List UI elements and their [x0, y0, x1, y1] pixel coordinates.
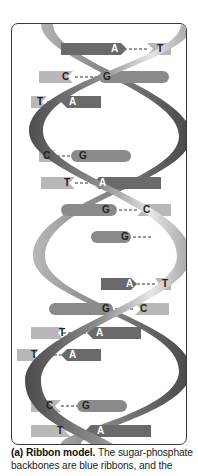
base-8-left: A — [126, 278, 133, 289]
base-8-right: T — [162, 278, 168, 289]
base-12-left: C — [46, 400, 53, 411]
base-2-right: G — [103, 71, 111, 82]
base-13-left: T — [57, 425, 63, 436]
base-5-left: T — [64, 177, 70, 188]
caption-title: Ribbon model. — [26, 447, 95, 458]
base-1-right: T — [157, 43, 163, 54]
base-12-right: G — [82, 400, 90, 411]
base-10-left: T — [59, 327, 65, 338]
figure-caption: (a) Ribbon model. The sugar-phosphate ba… — [11, 446, 197, 472]
base-5-right: A — [99, 177, 106, 188]
base-1-left: A — [111, 43, 118, 54]
base-4-left: C — [43, 150, 50, 161]
base-letters: A T C G T A C G T A G C G A T G C T A T … — [12, 24, 186, 444]
base-11-left: T — [31, 349, 37, 360]
ribbon-model-figure-frame: A T C G T A C G T A G C G A T G C T A T … — [11, 23, 187, 445]
base-3-left: T — [37, 96, 43, 107]
base-3-right: A — [69, 96, 76, 107]
base-9-left: G — [102, 303, 110, 314]
base-6-right: C — [143, 204, 150, 215]
base-2-left: C — [62, 71, 69, 82]
base-4-right: G — [79, 150, 87, 161]
base-13-right: A — [97, 425, 104, 436]
base-9-right: C — [140, 303, 147, 314]
base-7-left: G — [121, 231, 129, 242]
base-6-left: G — [102, 204, 110, 215]
base-11-right: A — [69, 349, 76, 360]
caption-panel-label: (a) — [11, 447, 23, 458]
base-10-right: A — [96, 327, 103, 338]
